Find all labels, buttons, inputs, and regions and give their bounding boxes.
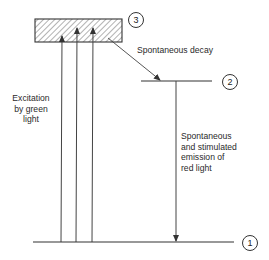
excitation-label-line: light [4, 114, 58, 125]
emission-label-line: red light [181, 163, 237, 174]
excitation-label-line: by green [4, 104, 58, 115]
excitation-label-line: Excitation [4, 93, 58, 104]
emission-label-line: Spontaneous [181, 131, 237, 142]
emission-label-line: and stimulated [181, 142, 237, 153]
excitation-arrow-1 [61, 36, 62, 242]
energy-level-diagram [0, 0, 269, 260]
level-2-marker: 2 [222, 74, 238, 90]
emission-label-line: emission of [181, 152, 237, 163]
level-3-marker: 3 [128, 12, 144, 28]
excitation-arrow-3 [92, 28, 93, 242]
excitation-arrow-2 [76, 28, 77, 242]
excitation-label: Excitation by green light [4, 93, 58, 125]
emission-label: Spontaneous and stimulated emission of r… [181, 131, 237, 173]
level-1-marker: 1 [242, 235, 258, 251]
decay-label: Spontaneous decay [137, 45, 213, 56]
